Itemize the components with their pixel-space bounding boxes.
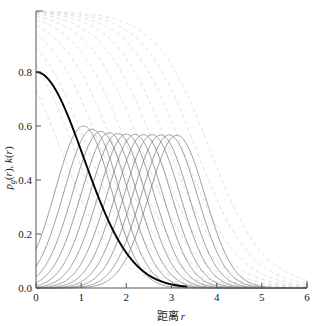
x-tick-label: 2: [124, 291, 130, 303]
y-tick-label: 0.0: [18, 282, 32, 294]
x-tick-label: 0: [33, 291, 39, 303]
x-axis-title: 距离r: [157, 309, 186, 322]
y-tick-label: 0.4: [18, 174, 32, 186]
x-tick-label: 3: [169, 291, 175, 303]
chart-svg: 0123456 0.00.20.40.60.8 距离r pg(r), k(r): [0, 0, 319, 326]
x-tick-label: 1: [78, 291, 84, 303]
y-tick-label: 0.2: [18, 228, 32, 240]
x-axis-title-group: 距离r: [157, 309, 186, 322]
y-tick-label: 0.8: [18, 66, 32, 78]
chart-figure: 0123456 0.00.20.40.60.8 距离r pg(r), k(r): [0, 0, 319, 326]
y-tick-label: 0.6: [18, 120, 32, 132]
x-tick-label: 4: [214, 291, 220, 303]
x-tick-label: 5: [259, 291, 265, 303]
x-tick-label: 6: [304, 291, 310, 303]
